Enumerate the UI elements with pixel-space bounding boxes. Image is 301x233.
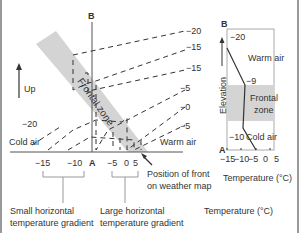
front-position-arrow-icon [144, 157, 152, 165]
axis-tick: 5 [133, 158, 138, 168]
elevation-label: Elevation [218, 77, 228, 114]
small-gradient-label: temperature gradient [10, 218, 94, 228]
front-arrowhead-icon [141, 153, 147, 159]
frontal-zone-diagram: Frontal zone B Up −20 −15 −15 −5 −0 −5 −… [0, 0, 301, 233]
isotherm-label: −5 [180, 121, 190, 131]
x-tick: −10 [234, 154, 249, 164]
warm-air-label-right: Warm air [248, 53, 284, 63]
temp-mid-lower-label: −10 [229, 132, 244, 142]
temp-mid-upper-label: −9 [246, 76, 256, 86]
isotherm-label: −15 [186, 63, 201, 73]
isotherm-label: −20 [186, 26, 201, 36]
gradient-brackets [43, 171, 138, 203]
axis-tick: −5 [107, 158, 117, 168]
temperature-caption: Temperature (°C) [204, 206, 273, 216]
large-gradient-label: temperature gradient [100, 218, 184, 228]
large-gradient-bracket [112, 171, 138, 177]
front-position-label: Position of front [147, 169, 210, 179]
front-position-label: on weather map [147, 181, 212, 191]
isotherm-left-label: −20 [22, 119, 37, 129]
up-label: Up [24, 84, 36, 94]
up-arrowhead-icon [16, 63, 22, 70]
axis-tick: −15 [35, 158, 50, 168]
elevation-arrowhead-icon [220, 37, 225, 43]
frontal-zone-label-right: Frontal [250, 93, 278, 103]
warm-air-label: Warm air [160, 137, 196, 147]
frontal-zone-shade [227, 85, 274, 121]
b-label: B [88, 11, 95, 21]
b-label-right: B [221, 19, 228, 29]
x-axis-label: Temperature (°C) [223, 173, 292, 183]
axis-tick: −10 [67, 158, 82, 168]
x-tick: 5 [274, 154, 279, 164]
frontal-zone-label-right: zone [254, 105, 274, 115]
isotherm-label: −0 [180, 102, 190, 112]
x-tick: −5 [248, 154, 258, 164]
isotherm-label: −15 [186, 42, 201, 52]
isotherm-label: −5 [180, 83, 190, 93]
a-label: A [89, 158, 96, 168]
large-gradient-label: Large horizontal [100, 206, 165, 216]
cold-air-label: Cold air [9, 137, 40, 147]
axis-tick: 0 [124, 158, 129, 168]
temp-top-label: −20 [230, 32, 245, 42]
isotherm-minus20 [73, 31, 185, 55]
cold-air-label-right: Cold air [246, 132, 277, 142]
small-gradient-bracket [43, 171, 84, 177]
x-tick: −15 [220, 154, 235, 164]
small-gradient-label: Small horizontal [10, 206, 74, 216]
x-tick: 0 [263, 154, 268, 164]
